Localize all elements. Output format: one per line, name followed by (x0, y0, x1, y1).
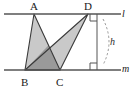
vertex-label-b: B (21, 77, 28, 88)
geometry-figure: A D B C l m h (0, 0, 134, 91)
line-label-l: l (122, 9, 125, 19)
vertex-label-c: C (56, 77, 63, 88)
vertex-label-d: D (84, 1, 92, 12)
height-label-h: h (110, 37, 115, 47)
height-arc (103, 19, 109, 65)
right-angle-marker-top (90, 14, 97, 21)
right-angle-marker-bottom (90, 63, 97, 70)
line-label-m: m (122, 64, 129, 74)
vertex-label-a: A (30, 1, 38, 12)
